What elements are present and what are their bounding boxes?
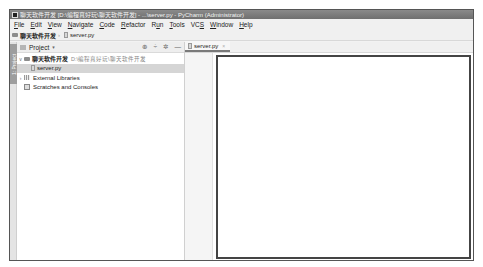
project-view-selector[interactable]: Project [29,44,49,51]
python-file-icon [188,43,192,49]
menu-tools[interactable]: Tools [166,21,187,28]
chevron-down-icon[interactable]: ▾ [52,44,55,50]
menu-view[interactable]: View [45,21,65,28]
project-tree: ∨ 聊天软件开发 D:\编程真好玩\聊天软件开发 server.py › Ext… [17,53,184,92]
tab-label: server.py [194,43,218,49]
menu-run[interactable]: Run [149,21,167,28]
pycharm-window: 聊天软件开发 [D:\编程真好玩\聊天软件开发] - ...\server.py… [9,9,474,261]
collapse-all-icon[interactable]: ÷ [153,43,157,51]
main-area: 1: Project Project ▾ ⊕ ÷ ✲ — ∨ 聊天软件开发 [10,42,473,260]
menu-refactor[interactable]: Refactor [118,21,149,28]
menu-window[interactable]: Window [207,21,236,28]
expand-arrow-icon[interactable]: ∨ [17,56,24,62]
window-title: 聊天软件开发 [D:\编程真好玩\聊天软件开发] - ...\server.py… [20,10,244,19]
menu-navigate[interactable]: Navigate [65,21,97,28]
editor-tab-server-py[interactable]: server.py × [185,41,230,52]
folder-icon [24,57,30,61]
menu-code[interactable]: Code [96,21,118,28]
left-tool-strip: 1: Project [10,42,17,260]
editor-area: server.py × [185,42,473,260]
locate-file-icon[interactable]: ⊕ [142,43,147,51]
tree-item-project-root[interactable]: ∨ 聊天软件开发 D:\编程真好玩\聊天软件开发 [17,54,184,64]
title-bar: 聊天软件开发 [D:\编程真好玩\聊天软件开发] - ...\server.py… [10,10,473,19]
project-view-icon [20,45,26,50]
python-file-icon [31,65,35,71]
hide-panel-icon[interactable]: — [175,43,182,51]
libraries-label: External Libraries [33,75,80,81]
library-icon [24,75,30,80]
project-root-name: 聊天软件开发 [32,54,68,63]
pycharm-app-icon [12,12,18,18]
project-panel-header: Project ▾ ⊕ ÷ ✲ — [17,42,184,53]
tree-item-external-libraries[interactable]: › External Libraries [17,73,184,83]
project-panel-tools: ⊕ ÷ ✲ — [142,43,184,51]
breadcrumb-file[interactable]: server.py [70,32,94,38]
scratches-label: Scratches and Consoles [33,84,98,90]
menu-edit[interactable]: Edit [28,21,45,28]
editor-gutter [185,53,213,260]
project-panel: Project ▾ ⊕ ÷ ✲ — ∨ 聊天软件开发 D:\编程真好玩\聊天软件… [17,42,185,260]
collapse-arrow-icon[interactable]: › [17,75,24,81]
folder-icon [12,33,18,37]
project-tool-window-tab[interactable]: 1: Project [10,44,17,84]
project-root-path: D:\编程真好玩\聊天软件开发 [71,55,146,63]
menu-vcs[interactable]: VCS [188,21,207,28]
editor-tab-bar: server.py × [185,42,473,53]
close-tab-icon[interactable]: × [222,43,225,49]
code-editor[interactable] [216,55,471,259]
file-name: server.py [37,65,61,71]
menu-help[interactable]: Help [236,21,255,28]
menu-bar: FileEditViewNavigateCodeRefactorRunTools… [10,19,473,30]
breadcrumb-project[interactable]: 聊天软件开发 [20,31,56,40]
menu-file[interactable]: File [11,21,28,28]
tree-item-scratches[interactable]: Scratches and Consoles [17,83,184,93]
scratches-icon [24,84,30,90]
breadcrumb-separator: › [58,32,60,38]
gear-icon[interactable]: ✲ [163,43,168,51]
navigation-bar: 聊天软件开发 › server.py [10,30,473,41]
tree-item-server-py[interactable]: server.py [17,64,184,74]
python-file-icon [64,32,68,38]
